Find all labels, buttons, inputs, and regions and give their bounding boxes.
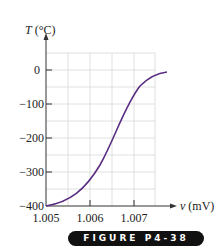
x-axis-arrow-icon [170,204,177,209]
y-tick-neg200: −200 [19,131,44,145]
axes [46,38,172,206]
figure-label: FIGURE P4-38 [68,231,204,246]
data-curve [46,72,167,206]
chart: T (°C) v (mV) 0 −100 −200 −300 −400 1.00… [0,0,219,252]
x-axis-label: v (mV) [180,199,214,213]
y-axis-label: T (°C) [25,23,55,37]
y-tick-neg300: −300 [19,165,44,179]
grid [46,53,155,206]
x-tick-1006: 1.006 [77,211,104,225]
x-tick-1005: 1.005 [33,211,60,225]
y-tick-neg100: −100 [19,97,44,111]
x-tick-1007: 1.007 [121,211,148,225]
y-tick-0: 0 [34,63,40,77]
